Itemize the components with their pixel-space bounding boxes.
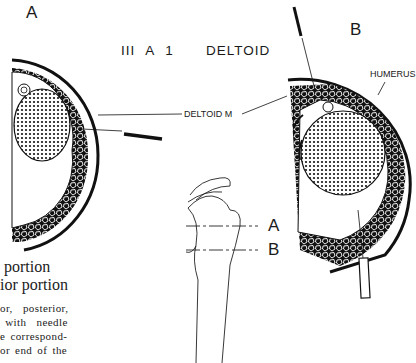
caption-heading-1: portion [0,258,50,276]
deltoid-leader-b [242,96,287,114]
deltoid-muscle-label: DELTOID M [184,109,232,119]
section-label-b: B [268,240,279,260]
deltoid-leader-a [98,114,182,115]
caption-body-3: e correspond- [0,330,67,343]
caption-heading-2: ior portion [0,276,68,294]
cross-section-b [288,7,410,298]
caption-body-2: with needle [0,316,68,329]
humerus-leader [378,82,385,95]
panel-label-b: B [350,20,361,40]
humerus-label: HUMERUS [370,69,416,79]
humerus-outline [186,178,240,363]
cross-section-a [12,60,162,250]
caption-body-1: or, posterior, [0,302,68,315]
figure-title: III A 1 DELTOID [121,43,270,58]
section-label-a: A [268,216,279,236]
caption-body-4: or end of the [0,344,67,357]
panel-label-a: A [26,3,37,23]
